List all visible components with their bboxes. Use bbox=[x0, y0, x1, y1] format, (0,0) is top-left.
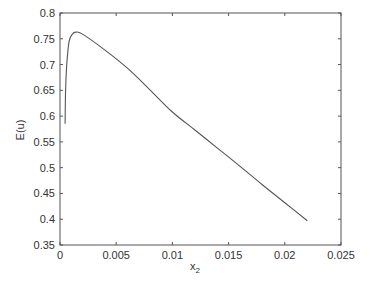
y-tick-label: 0.45 bbox=[34, 187, 55, 199]
y-tick-label: 0.35 bbox=[34, 239, 55, 251]
line-chart: 00.0050.010.0150.020.025 0.350.40.450.50… bbox=[0, 0, 373, 288]
y-tick-label: 0.8 bbox=[40, 7, 55, 19]
x-axis-label: x2 bbox=[190, 260, 201, 275]
y-tick-label: 0.5 bbox=[40, 162, 55, 174]
x-tick-label: 0.005 bbox=[102, 249, 130, 261]
x-tick-label: 0.01 bbox=[162, 249, 183, 261]
x-tick-label: 0 bbox=[57, 249, 63, 261]
y-tick-label: 0.65 bbox=[34, 84, 55, 96]
y-axis-label: E(u) bbox=[14, 120, 26, 141]
y-tick-label: 0.6 bbox=[40, 110, 55, 122]
x-tick-label: 0.025 bbox=[327, 249, 355, 261]
y-tick-label: 0.55 bbox=[34, 136, 55, 148]
x-tick-label: 0.015 bbox=[215, 249, 243, 261]
y-tick-label: 0.75 bbox=[34, 33, 55, 45]
x-tick-label: 0.02 bbox=[274, 249, 295, 261]
y-tick-label: 0.7 bbox=[40, 59, 55, 71]
y-tick-label: 0.4 bbox=[40, 213, 55, 225]
plot-area: 00.0050.010.0150.020.025 0.350.40.450.50… bbox=[34, 7, 355, 261]
